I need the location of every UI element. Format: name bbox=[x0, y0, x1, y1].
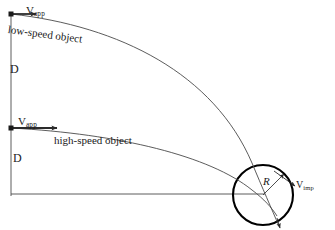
v-app-label-low-speed: Vapp bbox=[26, 5, 45, 18]
impact-parameter-label-high-speed: D bbox=[13, 152, 22, 164]
v-app-label-high-speed: Vapp bbox=[18, 116, 37, 129]
impact-parameter-label-low-speed: D bbox=[10, 63, 19, 75]
high-speed-object-label: high-speed object bbox=[54, 135, 132, 146]
high-speed-trajectory-curve bbox=[11, 128, 277, 216]
diagram-canvas: Vapp Vapp Vimp D D R low-speed object hi… bbox=[0, 0, 335, 230]
v-app-origin-marker-low-speed bbox=[9, 12, 14, 17]
v-imp-label: Vimp bbox=[296, 180, 314, 191]
v-app-origin-marker-high-speed bbox=[9, 126, 14, 131]
radius-label: R bbox=[263, 176, 270, 187]
